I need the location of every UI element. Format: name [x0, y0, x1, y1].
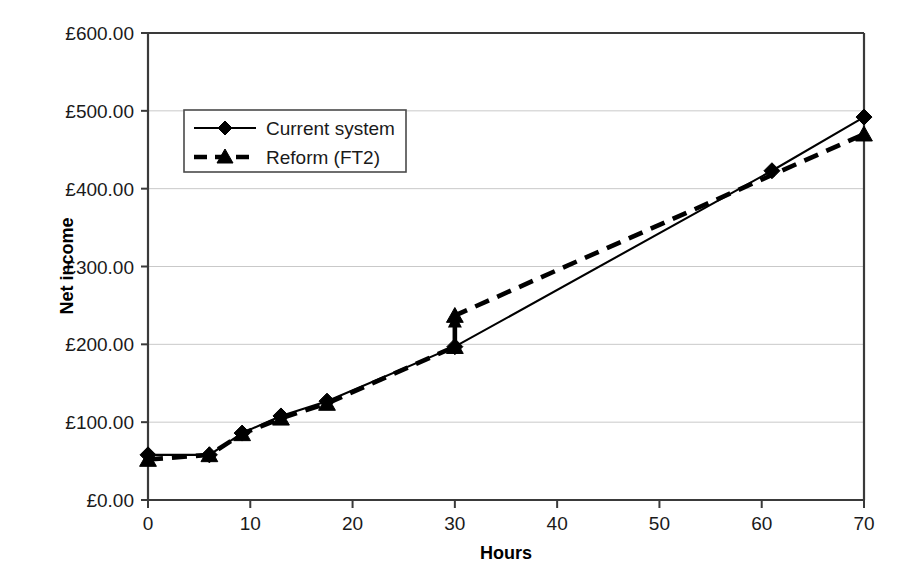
x-axis-tick-label: 70	[853, 513, 874, 534]
x-axis-tick-label: 60	[751, 513, 772, 534]
x-axis-tick-label: 40	[547, 513, 568, 534]
y-axis-title: Net income	[57, 217, 77, 314]
y-axis-tick-label: £600.00	[65, 23, 134, 44]
x-axis-tick-label: 50	[649, 513, 670, 534]
x-axis-tick-label: 20	[342, 513, 363, 534]
chart-container: £0.00£100.00£200.00£300.00£400.00£500.00…	[0, 0, 897, 583]
x-axis-tick-label: 0	[143, 513, 154, 534]
net-income-vs-hours-line-chart: £0.00£100.00£200.00£300.00£400.00£500.00…	[0, 0, 897, 583]
chart-background	[0, 0, 897, 583]
legend-label-current-system: Current system	[266, 118, 395, 139]
x-axis-title: Hours	[480, 543, 532, 563]
y-axis-tick-label: £500.00	[65, 101, 134, 122]
chart-legend: Current system Reform (FT2)	[184, 110, 406, 172]
x-axis-tick-label: 10	[240, 513, 261, 534]
y-axis-tick-label: £200.00	[65, 334, 134, 355]
legend-label-reform-ft2: Reform (FT2)	[266, 147, 380, 168]
y-axis-tick-label: £0.00	[86, 490, 134, 511]
x-axis-tick-label: 30	[444, 513, 465, 534]
y-axis-tick-label: £400.00	[65, 179, 134, 200]
y-axis-tick-label: £100.00	[65, 412, 134, 433]
